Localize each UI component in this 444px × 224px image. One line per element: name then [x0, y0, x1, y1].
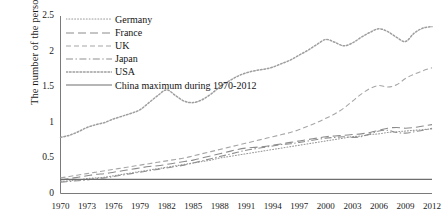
legend-swatch-china: [66, 79, 112, 91]
legend-item-usa[interactable]: USA: [66, 64, 256, 77]
series-line-japan: [61, 128, 433, 182]
legend: GermanyFranceUKJapanUSAChina maximum dur…: [66, 11, 256, 90]
legend-item-uk[interactable]: UK: [66, 37, 256, 50]
legend-item-japan[interactable]: Japan: [66, 51, 256, 64]
legend-label-china: China maximum during 1970-2012: [115, 79, 256, 92]
series-line-germany: [61, 129, 433, 182]
legend-item-germany[interactable]: Germany: [66, 11, 256, 24]
legend-item-china[interactable]: China maximum during 1970-2012: [66, 77, 256, 90]
series-line-france: [61, 125, 433, 180]
legend-item-france[interactable]: France: [66, 24, 256, 37]
line-chart: The number of the persons 00.511.522.5 1…: [0, 0, 444, 224]
